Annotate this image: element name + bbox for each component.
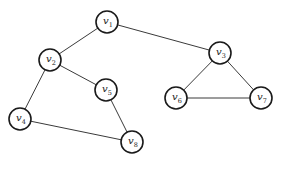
node-v8: v8 (121, 131, 143, 153)
node-v6: v6 (165, 87, 187, 109)
node-v5: v5 (95, 79, 117, 101)
node-v2: v2 (39, 49, 61, 71)
graph-diagram: v1v2v3v4v5v6v7v8 (0, 0, 283, 170)
node-v7: v7 (250, 87, 272, 109)
graph-canvas: v1v2v3v4v5v6v7v8 (0, 0, 283, 170)
edge-v4-v8 (20, 119, 132, 142)
node-v3: v3 (209, 42, 231, 64)
edge-layer (20, 22, 261, 142)
node-v4: v4 (9, 108, 31, 130)
node-v1: v1 (96, 11, 118, 33)
edge-v1-v3 (107, 22, 220, 53)
node-layer: v1v2v3v4v5v6v7v8 (9, 11, 272, 153)
